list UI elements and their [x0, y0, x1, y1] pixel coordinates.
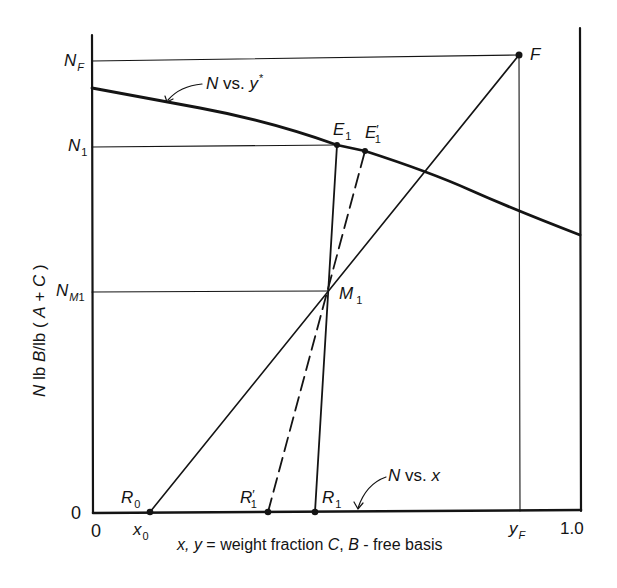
label-n1: N1	[68, 137, 87, 154]
tie-line-r1p-e1p	[268, 151, 365, 512]
label-nm1-sub-1: 1	[78, 291, 84, 303]
label-x0-main: x	[133, 520, 142, 539]
point-r1	[312, 509, 319, 516]
tie-line-r1-e1	[315, 145, 337, 512]
xlabel-comma: ,	[339, 536, 348, 553]
label-nf-sub: F	[77, 61, 84, 73]
label-r1-main: R	[322, 488, 334, 507]
nm1-level-line	[92, 291, 328, 292]
label-nm1-main: N	[56, 281, 68, 300]
ylabel-plus: +	[30, 287, 49, 306]
label-e1-sub: 1	[345, 130, 351, 142]
xlabel-b: B	[348, 536, 359, 553]
point-r0	[147, 509, 154, 516]
x-axis-title: x, y = weight fraction C, B - free basis	[177, 536, 442, 554]
ann-x-x: x	[431, 466, 440, 485]
point-r1-prime	[265, 509, 272, 516]
label-f: F	[530, 46, 540, 63]
label-r1: R1	[322, 489, 341, 506]
label-r0: R0	[121, 489, 140, 506]
label-x0-sub: 0	[143, 530, 149, 542]
callout-arrow-ystar	[168, 84, 202, 100]
ann-y-n: N	[206, 74, 218, 93]
label-r1-prime: R′1	[240, 489, 257, 506]
ylabel-b: B	[30, 351, 49, 362]
label-m1: M1	[339, 285, 362, 302]
label-m1-main: M	[339, 284, 353, 303]
extraction-diagram	[0, 0, 617, 588]
label-r0-sub: 0	[134, 498, 140, 510]
ann-x-n: N	[388, 466, 400, 485]
n1-level-line	[92, 145, 337, 147]
label-nf-main: N	[64, 51, 76, 70]
label-nm1: NM1	[56, 282, 85, 299]
label-e1-prime: E′1	[365, 124, 381, 141]
xlabel-c: C	[328, 536, 340, 553]
label-yf-main: y	[509, 519, 518, 538]
xlabel-xy: x, y	[177, 536, 202, 553]
ylabel-close: )	[30, 264, 49, 274]
label-yf: yF	[509, 520, 525, 537]
label-x-end: 1.0	[560, 520, 584, 537]
point-e1-prime	[362, 148, 368, 154]
label-origin-x: 0	[91, 522, 101, 540]
ylabel-n: N	[30, 385, 49, 397]
label-e1p-sub: 1	[375, 133, 381, 145]
xlabel-rest: - free basis	[359, 536, 443, 553]
yf-vertical-line	[519, 55, 520, 511]
ann-y-vs: vs.	[218, 74, 249, 93]
label-n1-main: N	[68, 136, 80, 155]
ylabel-c: C	[30, 275, 49, 287]
point-f	[516, 52, 523, 59]
label-r0-main: R	[121, 488, 133, 507]
label-origin-y: 0	[71, 504, 81, 522]
label-m1-sub: 1	[356, 294, 362, 306]
annotation-n-vs-x: N vs. x	[388, 467, 440, 484]
label-r1-sub: 1	[335, 498, 341, 510]
y-axis	[92, 35, 93, 513]
xlabel-eq: = weight fraction	[202, 536, 328, 553]
label-r1p-sub: 1	[251, 498, 257, 510]
ann-y-star: *	[259, 72, 263, 84]
ylabel-slash: /lb (	[30, 318, 49, 351]
ann-x-vs: vs.	[400, 466, 431, 485]
point-e1	[334, 142, 340, 148]
label-e1: E1	[333, 121, 351, 138]
right-axis	[580, 28, 581, 511]
y-axis-title: N lb B/lb ( A + C )	[31, 264, 48, 397]
ylabel-lb: lb	[30, 362, 49, 385]
nf-level-line	[92, 55, 519, 61]
label-e1-main: E	[333, 120, 344, 139]
label-n1-sub: 1	[81, 146, 87, 158]
ylabel-a: A	[30, 306, 49, 317]
label-nf: NF	[64, 52, 84, 69]
label-x0: x0	[133, 521, 149, 538]
curve-n-vs-x	[93, 510, 581, 513]
annotation-n-vs-ystar: N vs. y*	[206, 75, 263, 92]
label-yf-sub: F	[519, 529, 526, 541]
ann-y-y: y	[249, 74, 258, 93]
